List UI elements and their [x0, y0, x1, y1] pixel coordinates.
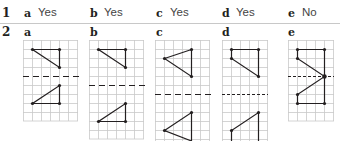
panel-c-label: c	[156, 26, 163, 39]
answer-1d-value: Yes	[236, 6, 255, 18]
question-2-row: 2 a b c d e	[0, 25, 340, 39]
answer-1b-label: b	[90, 7, 98, 20]
panel-d-grid-figure	[222, 40, 268, 141]
panel-a-label: a	[24, 26, 31, 39]
panel-b-grid-figure	[89, 40, 145, 140]
panel-a-diagram	[23, 40, 79, 122]
panel-e-diagram	[288, 40, 334, 122]
answer-1d-label: d	[222, 7, 230, 20]
answer-1a-value: Yes	[38, 6, 57, 18]
panel-b-diagram	[89, 40, 145, 140]
row-separator	[0, 23, 340, 24]
answer-1e-value: No	[302, 6, 317, 18]
panel-e-grid-figure	[288, 40, 334, 122]
panel-b-label: b	[90, 26, 98, 39]
answer-1b-value: Yes	[104, 6, 123, 18]
question-1-number: 1	[2, 6, 10, 20]
answer-1e-label: e	[288, 7, 295, 20]
panel-c-diagram	[155, 40, 211, 141]
panel-e-label: e	[288, 26, 295, 39]
answer-1c-label: c	[156, 7, 163, 20]
panel-d-label: d	[222, 26, 230, 39]
panel-d-diagram	[222, 40, 268, 141]
answer-1c-value: Yes	[170, 6, 189, 18]
panel-c-grid-figure	[155, 40, 211, 141]
question-1-row: 1 a Yes b Yes c Yes d Yes e No	[0, 6, 340, 22]
answer-1a-label: a	[24, 7, 31, 20]
question-2-number: 2	[2, 25, 10, 39]
panel-a-grid-figure	[23, 40, 79, 122]
